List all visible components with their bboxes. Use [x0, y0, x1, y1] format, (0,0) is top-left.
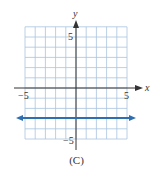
x-tick-min: −5	[18, 91, 29, 101]
figure-caption: (C)	[0, 154, 153, 166]
line-left-arrow-icon	[16, 115, 23, 121]
line-right-arrow-icon	[129, 115, 136, 121]
x-axis-arrow-icon	[135, 85, 143, 91]
x-tick-max: 5	[124, 91, 129, 101]
y-axis-arrow-icon	[73, 20, 79, 28]
coordinate-plane	[0, 0, 153, 174]
y-tick-min: −5	[63, 136, 74, 146]
y-axis-label: y	[73, 9, 77, 19]
y-tick-max: 5	[68, 32, 73, 42]
x-axis-label: x	[145, 83, 149, 93]
